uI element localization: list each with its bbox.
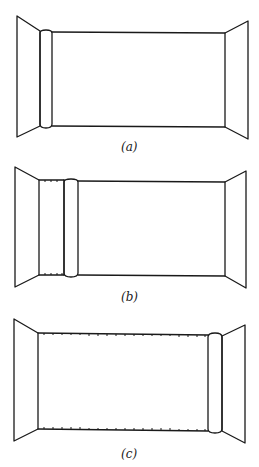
back-wall-bottom-edge [38,429,208,431]
wallpaper-diagram: (a) (b) [0,0,259,467]
back-wall-bottom-edge [78,275,225,276]
back-wall-top-edge [52,32,225,33]
panel-c: (c) [14,319,245,461]
back-wall-top-edge [38,333,208,335]
panel-b: (b) [15,167,246,304]
back-wall-bottom-edge [52,126,225,127]
panel-a: (a) [17,16,248,154]
panel-label-a: (a) [121,140,138,154]
wallpaper-roll [64,179,78,277]
right-wall [225,171,246,288]
wallpaper-roll [208,333,222,433]
left-wall [14,319,38,441]
back-wall-top-edge [78,181,225,182]
tack-marks [45,180,62,275]
panel-label-c: (c) [121,447,137,461]
left-wall [15,167,39,287]
right-wall [222,325,245,443]
right-wall [225,21,248,139]
left-wall [17,16,40,137]
panel-label-b: (b) [121,290,138,304]
tack-marks [44,333,205,431]
wallpaper-roll [40,30,52,128]
